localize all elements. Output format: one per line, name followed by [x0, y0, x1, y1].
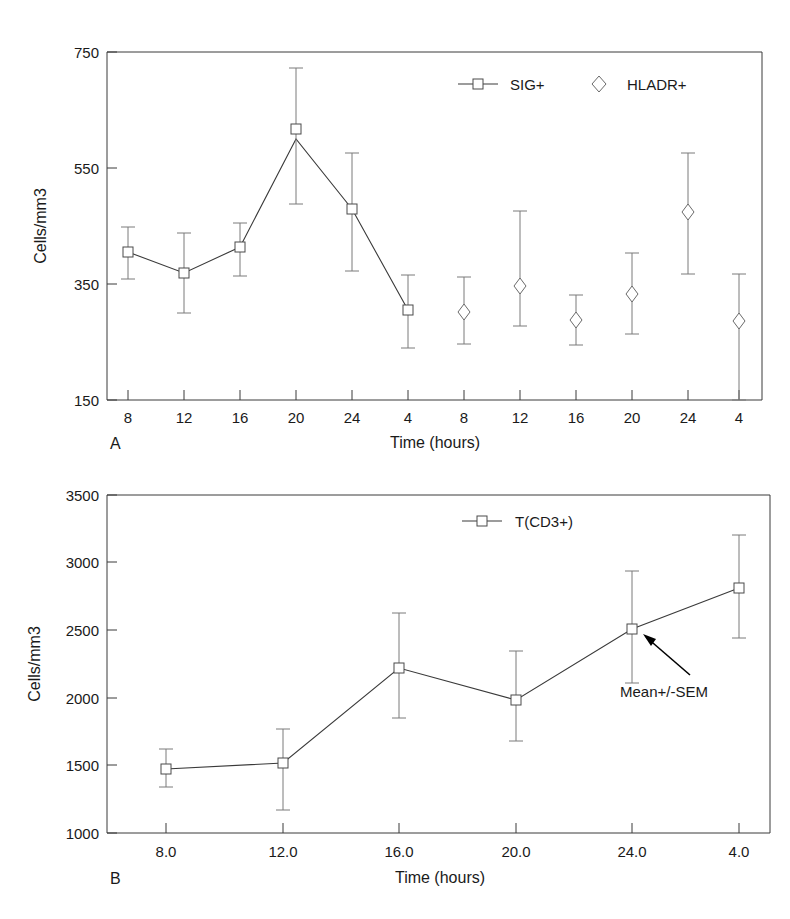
panel-b: 3500 3000 2500 2000 1500 1000 Cells/mm3	[0, 460, 790, 919]
x-tick-label: 16	[568, 409, 585, 426]
data-point-marker	[511, 695, 521, 705]
x-tick-label: 8.0	[156, 843, 177, 860]
x-tick-label: 12	[512, 409, 529, 426]
panel-a-x-ticks	[128, 390, 739, 400]
panel-letter-a: A	[110, 435, 121, 452]
x-tick-label: 8	[460, 409, 468, 426]
sem-annotation: Mean+/-SEM	[620, 634, 708, 700]
errorbars-sig	[121, 68, 415, 348]
x-axis-title: Time (hours)	[390, 434, 480, 451]
y-tick-label: 150	[74, 392, 99, 409]
panel-a-x-ticklabels: 8 12 16 20 24 4 8 12 16 20 24 4	[124, 409, 743, 426]
plot-frame	[107, 495, 770, 833]
data-point-marker	[682, 204, 694, 220]
panel-a-y-ticklabels: 750 550 350 150	[74, 44, 99, 409]
y-tick-label: 2500	[66, 622, 99, 639]
y-tick-label: 3500	[66, 487, 99, 504]
x-axis-title: Time (hours)	[395, 869, 485, 886]
panel-letter-b: B	[110, 870, 121, 887]
x-tick-label: 4	[404, 409, 412, 426]
x-tick-label: 16.0	[384, 843, 413, 860]
x-tick-label: 20	[624, 409, 641, 426]
data-point-marker	[458, 304, 470, 320]
y-tick-label: 2000	[66, 690, 99, 707]
legend-label-tcd3: T(CD3+)	[515, 513, 573, 530]
panel-a: 750 550 350 150 Cells/mm3	[0, 0, 790, 460]
y-tick-label: 1000	[66, 825, 99, 842]
errorbars-tcd3	[159, 535, 746, 810]
panel-a-axes	[107, 52, 762, 400]
data-point-marker	[161, 764, 171, 774]
panel-b-axes	[107, 495, 770, 833]
x-tick-label: 24.0	[617, 843, 646, 860]
legend-marker-square	[473, 79, 483, 89]
markers-sig	[123, 124, 413, 315]
data-point-marker	[347, 204, 357, 214]
data-point-marker	[627, 624, 637, 634]
x-tick-label: 8	[124, 409, 132, 426]
data-point-marker	[514, 278, 526, 294]
x-tick-label: 4	[735, 409, 743, 426]
panel-b-x-ticklabels: 8.0 12.0 16.0 20.0 24.0 4.0	[156, 843, 750, 860]
panel-b-legend: T(CD3+)	[462, 513, 573, 530]
panel-b-plot: 3500 3000 2500 2000 1500 1000 Cells/mm3	[0, 460, 790, 919]
panel-b-x-ticks	[166, 823, 739, 833]
x-tick-label: 24	[344, 409, 361, 426]
annotation-label-sem: Mean+/-SEM	[620, 683, 708, 700]
data-point-marker	[626, 286, 638, 302]
y-axis-title: Cells/mm3	[26, 626, 43, 702]
x-tick-label: 12.0	[268, 843, 297, 860]
series-line-sig	[128, 139, 408, 310]
data-point-marker	[278, 758, 288, 768]
y-tick-label: 1500	[66, 757, 99, 774]
panel-a-plot: 750 550 350 150 Cells/mm3	[0, 0, 790, 460]
x-tick-label: 16	[232, 409, 249, 426]
data-point-marker	[570, 312, 582, 328]
y-axis-title: Cells/mm3	[32, 188, 49, 264]
plot-frame	[107, 52, 762, 400]
y-tick-label: 550	[74, 160, 99, 177]
x-tick-label: 20.0	[501, 843, 530, 860]
x-tick-label: 12	[176, 409, 193, 426]
errorbars-hladr	[457, 153, 746, 400]
y-tick-label: 750	[74, 44, 99, 61]
y-tick-label: 350	[74, 276, 99, 293]
markers-tcd3	[161, 583, 744, 774]
y-tick-label: 3000	[66, 554, 99, 571]
series-line-tcd3	[166, 588, 739, 769]
data-point-marker	[394, 663, 404, 673]
legend-marker-diamond	[592, 76, 606, 92]
figure-container: 750 550 350 150 Cells/mm3	[0, 0, 790, 919]
x-tick-label: 4.0	[729, 843, 750, 860]
legend-label-hladr: HLADR+	[627, 76, 687, 93]
data-point-marker	[734, 583, 744, 593]
data-point-marker	[179, 268, 189, 278]
x-tick-label: 24	[680, 409, 697, 426]
panel-a-y-ticks	[107, 52, 117, 400]
data-point-marker	[733, 313, 745, 329]
panel-b-y-ticklabels: 3500 3000 2500 2000 1500 1000	[66, 487, 99, 842]
legend-label-sig: SIG+	[510, 76, 545, 93]
markers-hladr	[458, 204, 745, 329]
legend-marker-square	[477, 516, 487, 526]
data-point-marker	[291, 124, 301, 134]
data-point-marker	[123, 247, 133, 257]
x-tick-label: 20	[288, 409, 305, 426]
data-point-marker	[235, 242, 245, 252]
data-point-marker	[403, 305, 413, 315]
panel-b-y-ticks	[107, 495, 117, 833]
panel-a-legend: SIG+ HLADR+	[458, 76, 687, 93]
